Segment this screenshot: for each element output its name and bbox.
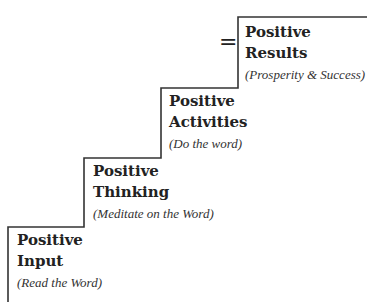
step-title-line1: Positive: [169, 91, 247, 112]
step-positive-thinking: Positive Thinking (Meditate on the Word): [93, 161, 214, 224]
step-title-line2: Thinking: [93, 182, 214, 203]
equals-sign: =: [219, 30, 237, 54]
step-positive-activities: Positive Activities (Do the word): [169, 91, 247, 154]
step-subtitle: (Prosperity & Success): [245, 64, 365, 85]
step-title-line1: Positive: [93, 161, 214, 182]
step-subtitle: (Read the Word): [17, 272, 102, 293]
step-title-line2: Activities: [169, 112, 247, 133]
step-positive-input: Positive Input (Read the Word): [17, 230, 102, 293]
step-subtitle: (Meditate on the Word): [93, 203, 214, 224]
step-title-line1: Positive: [17, 230, 102, 251]
step-title-line2: Results: [245, 43, 365, 64]
step-title-line1: Positive: [245, 22, 365, 43]
step-subtitle: (Do the word): [169, 133, 247, 154]
step-title-line2: Input: [17, 251, 102, 272]
step-positive-results: Positive Results (Prosperity & Success): [245, 22, 365, 85]
